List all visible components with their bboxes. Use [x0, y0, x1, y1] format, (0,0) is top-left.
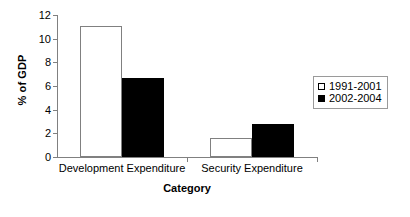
y-axis-tick — [53, 86, 57, 87]
y-axis-title: % of GDP — [16, 40, 28, 120]
plot-area: 024681012 — [57, 15, 317, 157]
x-axis-tick — [317, 157, 318, 162]
y-axis-tick — [53, 133, 57, 134]
y-axis-tick — [53, 39, 57, 40]
y-axis-line — [57, 15, 58, 157]
chart-legend: 1991-20012002-2004 — [313, 76, 388, 109]
hollow-square-icon — [318, 83, 325, 90]
legend-item-label: 2002-2004 — [329, 93, 382, 104]
x-axis-title: Category — [57, 182, 317, 194]
bar-chart: % of GDP 024681012 Development Expenditu… — [0, 0, 410, 217]
legend-item-label: 1991-2001 — [329, 81, 382, 92]
legend-item: 1991-2001 — [318, 81, 382, 92]
bar-series-1991-2001 — [80, 26, 122, 157]
y-axis-tick — [53, 157, 57, 158]
bar-series-2002-2004 — [252, 124, 294, 157]
y-axis-tick-label: 10 — [39, 33, 51, 44]
y-axis-tick — [53, 110, 57, 111]
filled-square-icon — [318, 95, 325, 102]
y-axis-tick-label: 2 — [45, 128, 51, 139]
x-axis-tick — [187, 157, 188, 162]
x-axis-category-label: Security Expenditure — [201, 162, 303, 175]
bar-series-1991-2001 — [210, 138, 252, 157]
legend-item: 2002-2004 — [318, 93, 382, 104]
y-axis-tick-label: 4 — [45, 104, 51, 115]
x-axis-category-label: Development Expenditure — [59, 162, 186, 175]
y-axis-tick-label: 0 — [45, 152, 51, 163]
y-axis-tick — [53, 62, 57, 63]
y-axis-tick-label: 6 — [45, 81, 51, 92]
y-axis-tick — [53, 15, 57, 16]
bar-series-2002-2004 — [122, 78, 164, 157]
y-axis-tick-label: 12 — [39, 10, 51, 21]
y-axis-tick-label: 8 — [45, 57, 51, 68]
